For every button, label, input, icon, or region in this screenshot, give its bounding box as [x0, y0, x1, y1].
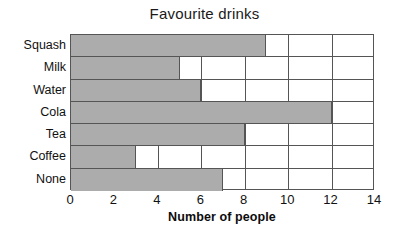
bar-tea — [71, 124, 245, 145]
x-axis-tick-labels: 02468101214 — [0, 192, 401, 210]
bar-row — [71, 169, 373, 191]
x-tick-label-2: 2 — [110, 192, 117, 208]
y-axis-category-labels: SquashMilkWaterColaTeaCoffeeNone — [0, 34, 66, 190]
bar-none — [71, 169, 223, 191]
bar-series — [71, 35, 373, 191]
x-tick-label-4: 4 — [153, 192, 160, 208]
bar-coffee — [71, 146, 136, 167]
y-axis-label-squash: Squash — [0, 34, 66, 56]
y-axis-label-water: Water — [0, 79, 66, 101]
chart-title: Favourite drinks — [0, 5, 401, 22]
bar-chart: Favourite drinks SquashMilkWaterColaTeaC… — [0, 0, 401, 241]
bar-water — [71, 80, 201, 101]
x-tick-label-0: 0 — [66, 192, 73, 208]
y-axis-label-coffee: Coffee — [0, 145, 66, 167]
bar-milk — [71, 57, 180, 78]
x-tick-label-12: 12 — [323, 192, 337, 208]
bar-row — [71, 102, 373, 124]
bar-row — [71, 124, 373, 146]
bar-squash — [71, 35, 266, 56]
x-tick-label-10: 10 — [280, 192, 294, 208]
x-tick-label-6: 6 — [197, 192, 204, 208]
y-axis-label-cola: Cola — [0, 101, 66, 123]
bar-row — [71, 35, 373, 57]
bar-row — [71, 80, 373, 102]
x-tick-label-8: 8 — [240, 192, 247, 208]
plot-area — [70, 34, 374, 190]
y-axis-label-milk: Milk — [0, 56, 66, 78]
y-axis-label-none: None — [0, 168, 66, 190]
y-axis-label-tea: Tea — [0, 123, 66, 145]
bar-cola — [71, 102, 332, 123]
x-axis-title: Number of people — [70, 210, 374, 224]
bar-row — [71, 57, 373, 79]
bar-row — [71, 146, 373, 168]
x-tick-label-14: 14 — [367, 192, 381, 208]
